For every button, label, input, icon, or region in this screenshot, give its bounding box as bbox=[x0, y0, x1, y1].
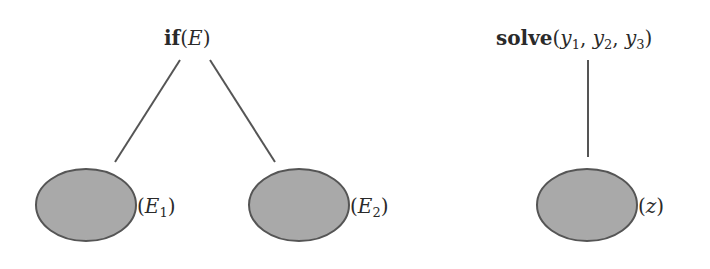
edge-if-to-e2 bbox=[210, 60, 275, 162]
e1-label: (E1) bbox=[137, 196, 176, 219]
arg-y3: y3 bbox=[625, 26, 645, 50]
solve-keyword: solve bbox=[496, 26, 553, 50]
separator: , bbox=[612, 26, 625, 50]
if-node-label: if(E) bbox=[164, 28, 210, 48]
node-e1 bbox=[36, 169, 136, 241]
separator: , bbox=[580, 26, 593, 50]
z-label: (z) bbox=[638, 196, 664, 216]
paren-open: ( bbox=[180, 26, 188, 50]
node-e2 bbox=[249, 169, 349, 241]
paren-close: ) bbox=[203, 26, 211, 50]
node-z bbox=[537, 169, 637, 241]
edge-if-to-e1 bbox=[115, 60, 180, 162]
if-arg: E bbox=[188, 26, 203, 50]
paren-close: ) bbox=[645, 26, 653, 50]
if-tree-edges bbox=[115, 60, 275, 162]
arg-y1: y1 bbox=[560, 26, 580, 50]
arg-y2: y2 bbox=[593, 26, 613, 50]
e2-label: (E2) bbox=[350, 196, 389, 219]
solve-node-label: solve(y1, y2, y3) bbox=[496, 28, 652, 51]
if-keyword: if bbox=[164, 26, 180, 50]
